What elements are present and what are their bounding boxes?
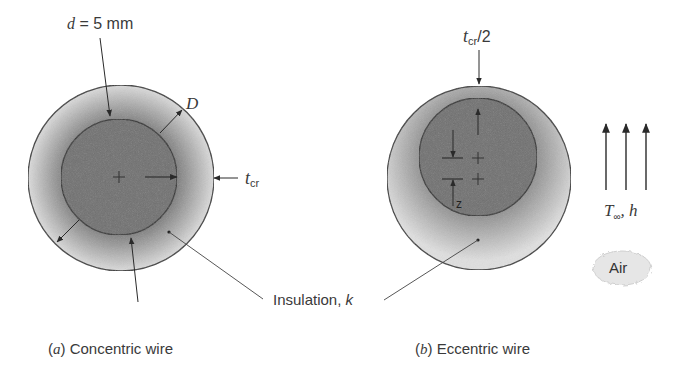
caption-a: (a) Concentric wire	[48, 340, 173, 358]
ambient-label: T∞, h	[604, 201, 638, 222]
air-flow-arrows	[606, 124, 646, 190]
half-suffix: /2	[477, 28, 490, 45]
tcr-label: tcr	[245, 168, 259, 189]
insulation-leader-a	[169, 232, 263, 299]
infinity-subscript: ∞	[613, 211, 620, 222]
cr-subscript: cr	[250, 177, 259, 189]
cr-subscript-b: cr	[468, 35, 477, 47]
wire-insulation-diagram	[0, 0, 691, 371]
caption-b-letter: b	[420, 341, 428, 357]
h-symbol: , h	[621, 201, 638, 220]
z-label: z	[456, 197, 462, 211]
insulation-label: Insulation, k	[273, 291, 353, 308]
concentric-wire	[28, 38, 263, 302]
insulation-text: Insulation,	[273, 291, 346, 308]
d-label: d = 5 mm	[67, 15, 133, 33]
air-label: Air	[609, 259, 627, 276]
tcr-half-label: tcr/2	[463, 26, 491, 47]
caption-b: (b) Eccentric wire	[415, 340, 530, 358]
caption-a-letter: a	[53, 341, 61, 357]
D-label: D	[186, 94, 198, 114]
caption-b-text: Eccentric wire	[437, 340, 530, 357]
eccentric-wire	[384, 50, 571, 300]
k-symbol: k	[346, 291, 354, 308]
d-value: = 5 mm	[75, 15, 133, 32]
d-variable: d	[67, 15, 75, 32]
caption-a-text: Concentric wire	[70, 340, 173, 357]
